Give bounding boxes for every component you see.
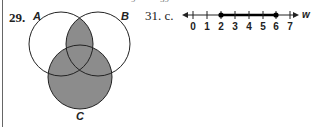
tick-label-1: 1 <box>204 21 210 32</box>
closed-endpoint-6 <box>273 12 278 17</box>
problem-31-number: 31. c. <box>145 8 174 24</box>
tick-label-5: 5 <box>260 21 266 32</box>
tick-label-2: 2 <box>218 21 224 32</box>
number-line-variable: w <box>302 9 310 20</box>
number-line <box>182 11 299 19</box>
set-b-label: B <box>121 10 129 22</box>
tick-label-3: 3 <box>232 21 238 32</box>
set-a-label: A <box>33 10 41 22</box>
closed-endpoint-2 <box>218 12 223 17</box>
set-c-label: C <box>76 110 84 122</box>
tick-label-4: 4 <box>246 21 252 32</box>
tick-label-6: 6 <box>273 21 279 32</box>
tick-label-7: 7 <box>287 21 293 32</box>
tick-label-0: 0 <box>190 21 196 32</box>
